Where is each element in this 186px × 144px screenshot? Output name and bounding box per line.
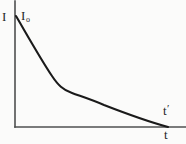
initial-intensity-label: Io [21,9,30,22]
initial-intensity-symbol: I [21,8,26,23]
x-axis-label: t [164,128,168,141]
initial-intensity-subscript: o [26,15,30,24]
intensity-decay-curve [16,16,168,127]
x-end-time-label: t′ [163,104,169,117]
prime-mark: ′ [167,102,170,114]
y-axis-label: I [2,10,7,23]
figure-container: I Io t′ t [0,0,186,144]
